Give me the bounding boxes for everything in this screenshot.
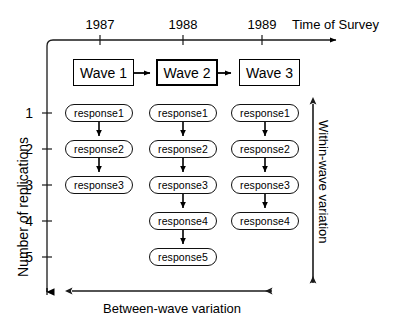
diagram-vector-layer [0, 0, 401, 330]
response-box-w2-r1[interactable]: response1 [149, 104, 217, 122]
wave-box-3[interactable]: Wave 3 [239, 59, 300, 86]
response-box-w2-r2[interactable]: response2 [149, 140, 217, 158]
wave-box-2[interactable]: Wave 2 [156, 59, 218, 86]
response-box-w3-r1[interactable]: response1 [231, 104, 299, 122]
response-box-w1-r1[interactable]: response1 [65, 104, 133, 122]
response-box-w3-r4[interactable]: response4 [231, 212, 299, 230]
between-wave-variation-label: Between-wave variation [72, 301, 272, 316]
response-box-w3-r2[interactable]: response2 [231, 140, 299, 158]
response-box-w2-r5[interactable]: response5 [149, 248, 217, 266]
response-box-w1-r3[interactable]: response3 [65, 176, 133, 194]
response-box-w2-r4[interactable]: response4 [149, 212, 217, 230]
survey-design-diagram: 1987 1988 1989 Time of Survey Wave 1 Wav… [0, 0, 401, 330]
year-label-1989: 1989 [234, 17, 290, 32]
within-wave-variation-label: Within-wave variation [317, 120, 330, 244]
time-axis-title: Time of Survey [292, 17, 379, 32]
year-label-1987: 1987 [72, 17, 128, 32]
response-box-w3-r3[interactable]: response3 [231, 176, 299, 194]
replication-tick-label-1: 1 [19, 106, 33, 120]
response-box-w1-r2[interactable]: response2 [65, 140, 133, 158]
year-label-1988: 1988 [155, 17, 211, 32]
response-box-w2-r3[interactable]: response3 [149, 176, 217, 194]
replication-axis-title: Number of replications [16, 137, 30, 277]
wave-box-1[interactable]: Wave 1 [73, 59, 134, 86]
